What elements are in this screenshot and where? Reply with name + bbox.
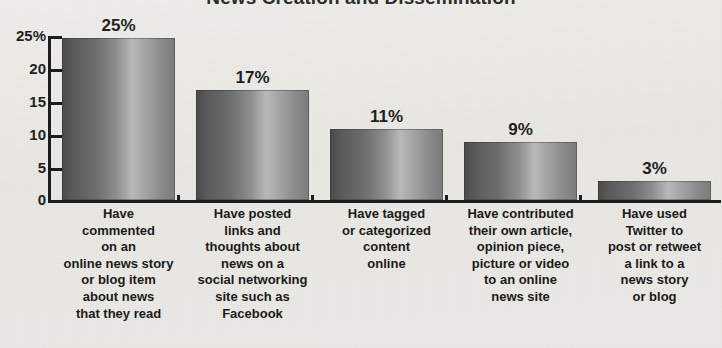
y-axis-tick (51, 36, 62, 39)
bar-2[interactable] (330, 129, 443, 200)
y-axis-label: 5 (0, 159, 46, 176)
x-axis-line (48, 200, 721, 203)
category-label-1: Have posted links and thoughts about new… (178, 206, 327, 322)
bar-chart-plot-area: 25% 20 15 10 5 0 25% 17% 11% 9% 3% Have … (0, 0, 722, 348)
category-label-3: Have contributed their own article, opin… (446, 206, 595, 306)
bar-value-2: 11% (330, 107, 443, 127)
bar-value-3: 9% (464, 120, 577, 140)
y-axis-tick (51, 102, 62, 105)
x-axis-tick (311, 195, 314, 201)
x-axis-tick (579, 195, 582, 201)
y-axis-tick (51, 69, 62, 72)
y-axis-label: 20 (0, 60, 46, 77)
x-axis-tick (177, 195, 180, 201)
y-axis-line (48, 36, 51, 203)
category-label-2: Have tagged or categorized content onlin… (312, 206, 461, 272)
y-axis-label: 15 (0, 93, 46, 110)
x-axis-tick (445, 195, 448, 201)
bar-4[interactable] (598, 181, 711, 200)
bar-3[interactable] (464, 142, 577, 200)
bar-0[interactable] (62, 38, 175, 200)
y-axis-label: 10 (0, 126, 46, 143)
y-axis-tick (51, 135, 62, 138)
bar-1[interactable] (196, 90, 309, 200)
category-label-0: Have commented on an online news story o… (44, 206, 193, 322)
bar-value-4: 3% (598, 159, 711, 179)
bar-value-1: 17% (196, 68, 309, 88)
category-label-4: Have used Twitter to post or retweet a l… (580, 206, 722, 306)
y-axis-label: 0 (0, 191, 46, 208)
bar-value-0: 25% (62, 16, 175, 36)
y-axis-tick (51, 168, 62, 171)
y-axis-label: 25% (0, 27, 46, 44)
